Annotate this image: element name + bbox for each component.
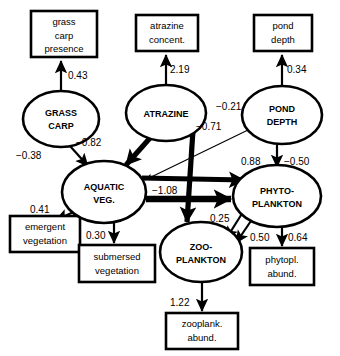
- svg-text:pond: pond: [272, 20, 293, 31]
- svg-text:carp: carp: [55, 30, 73, 41]
- coef-aquatic_veg-to-phyto-diag: 0.88: [241, 156, 261, 167]
- coef-atrazine-to-aquatic_veg: −0.82: [76, 137, 102, 148]
- node-zooplankton: [160, 222, 242, 282]
- svg-text:zooplank.: zooplank.: [182, 318, 223, 329]
- path-atrazine-to-zooplankton: [187, 130, 193, 222]
- coef-phytoplankton-to-zooplankton: 0.25: [210, 213, 230, 224]
- svg-text:ATRAZINE: ATRAZINE: [144, 109, 189, 119]
- coef-zooplankton-to-abund: 1.22: [170, 297, 190, 308]
- coef-grass_carp-to-aquatic_veg: −0.38: [16, 150, 42, 161]
- coef-pond_depth-to-aquatic_veg: −0.21: [216, 101, 242, 112]
- coef-aquatic_veg-to-phytoplankton: −1.08: [152, 185, 178, 196]
- svg-text:concent.: concent.: [149, 34, 185, 45]
- svg-text:AQUATIC: AQUATIC: [84, 182, 125, 192]
- svg-text:PLANKTON: PLANKTON: [176, 255, 226, 265]
- coef-phytoplankton-to-abund: 0.64: [288, 232, 308, 243]
- path-diagram-canvas: grass carp presence atrazine concent. po…: [0, 0, 340, 356]
- coef-aquatic_veg-to-emergent: 0.41: [30, 204, 50, 215]
- coef-pond_depth-to-indicator: 0.34: [287, 64, 307, 75]
- coef-pond_depth-to-phytoplankton: −0.50: [284, 156, 310, 167]
- svg-text:vegetation: vegetation: [23, 235, 67, 246]
- svg-text:DEPTH: DEPTH: [267, 117, 298, 127]
- coef-aquatic_veg-to-submersed: 0.30: [86, 230, 106, 241]
- svg-text:VEG.: VEG.: [93, 195, 115, 205]
- coef-atrazine-to-zooplankton: −0.71: [196, 121, 222, 132]
- coef-atrazine-to-concent: 2.19: [170, 64, 190, 75]
- node-pond-depth: [242, 86, 322, 144]
- svg-text:phytopl.: phytopl.: [265, 254, 298, 265]
- node-aquatic-veg: [62, 161, 146, 223]
- svg-text:emergent: emergent: [25, 221, 65, 232]
- svg-text:abund.: abund.: [187, 332, 216, 343]
- svg-text:submersed: submersed: [94, 251, 141, 262]
- svg-text:abund.: abund.: [267, 268, 296, 279]
- svg-text:depth: depth: [271, 34, 295, 45]
- coef-zooplankton-to-phytoplankton: 0.50: [250, 232, 270, 243]
- path-atrazine-to-aquatic_veg: [126, 138, 150, 165]
- path-aquatic_veg-to-phyto-diag: [142, 178, 244, 180]
- svg-text:ZOO-: ZOO-: [190, 242, 213, 252]
- svg-text:atrazine: atrazine: [150, 20, 184, 31]
- svg-text:GRASS: GRASS: [45, 108, 77, 118]
- coef-grass_carp-to-presence: 0.43: [68, 70, 88, 81]
- svg-text:PHYTO-: PHYTO-: [260, 186, 294, 196]
- path-diagram-svg: grass carp presence atrazine concent. po…: [0, 0, 340, 356]
- svg-text:CARP: CARP: [48, 121, 74, 131]
- svg-text:PLANKTON: PLANKTON: [252, 199, 302, 209]
- svg-text:presence: presence: [44, 43, 83, 54]
- svg-text:vegetation: vegetation: [95, 265, 139, 276]
- node-phytoplankton: [233, 165, 321, 227]
- svg-text:grass: grass: [52, 16, 75, 27]
- svg-text:POND: POND: [269, 104, 296, 114]
